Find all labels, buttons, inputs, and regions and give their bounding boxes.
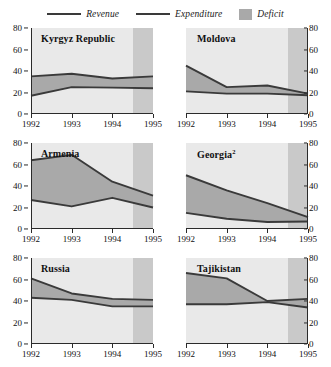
- x-tick-mark: [186, 229, 187, 233]
- y-tick-label: 60: [309, 275, 318, 284]
- x-tick-mark: [227, 114, 228, 118]
- y-tick-mark: [304, 300, 308, 301]
- y-tick-mark: [304, 92, 308, 93]
- x-tick-mark: [72, 229, 73, 233]
- x-tick-label: 1995: [144, 349, 162, 359]
- y-tick-label: 0: [309, 340, 314, 349]
- panel-title: Moldova: [197, 33, 235, 44]
- y-tick-mark: [304, 142, 308, 143]
- x-tick-label: 1995: [299, 119, 317, 129]
- y-axis: 020406080: [0, 258, 30, 344]
- y-tick-mark: [24, 113, 28, 114]
- chart-panel-tajikistan: Tajikistan0204060801992199319941995: [166, 252, 331, 367]
- y-tick-mark: [304, 185, 308, 186]
- y-tick-mark: [24, 27, 28, 28]
- y-tick-label: 20: [309, 203, 318, 212]
- y-tick-label: 0: [309, 110, 314, 119]
- y-tick-mark: [24, 257, 28, 258]
- legend-label-expenditure: Expenditure: [175, 9, 222, 19]
- y-tick-label: 80: [309, 24, 318, 33]
- deficit-area: [31, 155, 153, 208]
- y-tick-label: 20: [13, 88, 22, 97]
- y-tick-mark: [24, 70, 28, 71]
- chart-panel-armenia: Armenia0204060801992199319941995: [0, 137, 165, 252]
- legend-label-revenue: Revenue: [86, 9, 119, 19]
- panel-title: Armenia: [41, 148, 79, 159]
- legend-item-revenue: Revenue: [47, 9, 119, 19]
- x-axis: 1992199319941995: [186, 114, 308, 132]
- y-axis: 020406080: [0, 143, 30, 229]
- chart-panel-georgia: Georgia20204060801992199319941995: [166, 137, 331, 252]
- x-tick-mark: [72, 114, 73, 118]
- y-tick-mark: [24, 343, 28, 344]
- chart-panel-grid: Kyrgyz Republic0204060801992199319941995…: [0, 22, 331, 367]
- y-tick-label: 20: [309, 318, 318, 327]
- y-tick-label: 60: [13, 45, 22, 54]
- y-axis: 020406080: [301, 258, 331, 344]
- x-axis: 1992199319941995: [31, 114, 153, 132]
- y-tick-mark: [304, 322, 308, 323]
- y-tick-label: 20: [13, 318, 22, 327]
- y-tick-label: 40: [309, 297, 318, 306]
- y-tick-mark: [304, 207, 308, 208]
- panel-title: Russia: [41, 263, 70, 274]
- x-tick-label: 1994: [103, 349, 121, 359]
- x-tick-mark: [308, 114, 309, 118]
- x-tick-mark: [227, 344, 228, 348]
- x-tick-mark: [153, 344, 154, 348]
- y-tick-mark: [304, 279, 308, 280]
- panel-title: Kyrgyz Republic: [41, 33, 115, 44]
- x-axis: 1992199319941995: [186, 229, 308, 247]
- y-tick-label: 0: [18, 225, 23, 234]
- x-tick-mark: [153, 114, 154, 118]
- x-tick-label: 1992: [177, 119, 195, 129]
- chart-panel-moldova: Moldova0204060801992199319941995: [166, 22, 331, 137]
- y-tick-label: 0: [18, 340, 23, 349]
- x-tick-mark: [267, 114, 268, 118]
- x-tick-mark: [227, 229, 228, 233]
- x-tick-label: 1994: [103, 119, 121, 129]
- chart-panel-russia: Russia0204060801992199319941995: [0, 252, 165, 367]
- x-tick-label: 1995: [144, 234, 162, 244]
- y-tick-label: 40: [309, 67, 318, 76]
- x-tick-label: 1994: [258, 234, 276, 244]
- y-tick-mark: [24, 142, 28, 143]
- legend-swatch-icon: [239, 9, 252, 20]
- x-tick-label: 1992: [177, 234, 195, 244]
- y-tick-label: 80: [13, 24, 22, 33]
- x-tick-label: 1993: [218, 119, 236, 129]
- x-tick-label: 1994: [258, 349, 276, 359]
- x-tick-label: 1994: [258, 119, 276, 129]
- y-tick-label: 40: [13, 67, 22, 76]
- y-tick-mark: [304, 164, 308, 165]
- deficit-area: [31, 278, 153, 306]
- chart-legend: Revenue Expenditure Deficit: [0, 7, 331, 21]
- legend-item-deficit: Deficit: [239, 9, 284, 20]
- y-tick-label: 80: [309, 254, 318, 263]
- x-tick-label: 1995: [299, 349, 317, 359]
- x-tick-mark: [308, 229, 309, 233]
- x-tick-mark: [153, 229, 154, 233]
- legend-item-expenditure: Expenditure: [136, 9, 222, 19]
- x-tick-mark: [112, 229, 113, 233]
- x-tick-label: 1995: [144, 119, 162, 129]
- y-tick-label: 80: [13, 139, 22, 148]
- legend-line-icon: [47, 13, 81, 15]
- y-tick-label: 60: [13, 275, 22, 284]
- x-tick-label: 1994: [103, 234, 121, 244]
- y-tick-label: 0: [18, 110, 23, 119]
- y-tick-label: 0: [309, 225, 314, 234]
- y-tick-label: 20: [309, 88, 318, 97]
- y-tick-mark: [24, 228, 28, 229]
- x-tick-label: 1993: [63, 349, 81, 359]
- y-tick-label: 40: [309, 182, 318, 191]
- x-tick-mark: [112, 114, 113, 118]
- x-axis: 1992199319941995: [31, 229, 153, 247]
- y-tick-label: 60: [309, 45, 318, 54]
- x-tick-mark: [112, 344, 113, 348]
- x-tick-mark: [31, 229, 32, 233]
- x-tick-label: 1993: [218, 349, 236, 359]
- x-tick-label: 1993: [63, 119, 81, 129]
- x-tick-label: 1993: [63, 234, 81, 244]
- x-tick-mark: [72, 344, 73, 348]
